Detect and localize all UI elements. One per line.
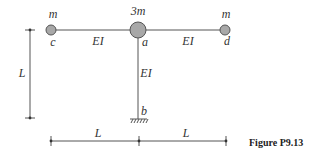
stiffness-label-ad: EI <box>181 34 194 48</box>
vertical-dimension <box>25 29 35 120</box>
fixed-support-icon <box>130 119 148 123</box>
mass-label-d: m <box>222 7 231 21</box>
node-label-a: a <box>142 35 148 49</box>
node-label-d: d <box>224 34 231 48</box>
node-label-c: c <box>50 35 56 49</box>
dimension-label-right: L <box>182 126 190 140</box>
mass-c <box>46 25 56 35</box>
dimension-label-left: L <box>94 126 102 140</box>
stiffness-label-ca: EI <box>91 34 104 48</box>
mass-label-a: 3m <box>130 4 146 18</box>
stiffness-label-ab: EI <box>139 66 152 80</box>
mass-label-c: m <box>49 7 58 21</box>
horizontal-dimension <box>50 136 228 146</box>
figure-caption: Figure P9.13 <box>249 137 303 148</box>
node-label-b: b <box>141 104 147 118</box>
frame-diagram: m 3m m c a d b EI EI EI L L L Figure P9.… <box>0 0 323 159</box>
dimension-label-vertical: L <box>18 66 26 80</box>
